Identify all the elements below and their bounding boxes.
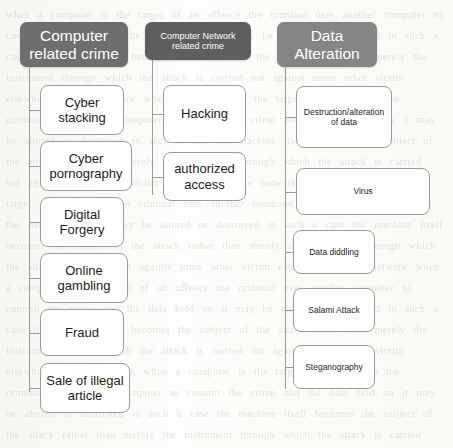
connector-trunk-computer-network-related-crime xyxy=(152,60,153,195)
node-box: Destruction/alteration of data xyxy=(296,86,392,148)
category-header-data-alteration: Data Alteration xyxy=(277,22,377,67)
node-box: Fraud xyxy=(40,309,124,356)
node-box: Hacking xyxy=(163,85,246,143)
connector-stub xyxy=(29,166,40,167)
connector-trunk-data-alteration xyxy=(285,67,286,389)
connector-stub xyxy=(285,117,296,118)
node-box: Data diddling xyxy=(293,230,375,274)
connector-stub xyxy=(29,110,40,111)
connector-stub xyxy=(29,222,40,223)
node-box: Cyber stacking xyxy=(40,85,124,135)
connector-stub xyxy=(152,114,163,115)
connector-stub xyxy=(285,252,293,253)
node-box: Virus xyxy=(296,168,430,215)
node-box: Online gambling xyxy=(40,253,128,303)
node-box: Steganography xyxy=(293,345,375,389)
node-box: Salami Attack xyxy=(293,288,375,332)
node-box: Digital Forgery xyxy=(40,197,124,247)
connector-stub xyxy=(285,367,293,368)
connector-stub xyxy=(29,333,40,334)
connector-stub xyxy=(29,388,40,389)
connector-stub xyxy=(152,177,163,178)
node-box: Cyber pornography xyxy=(40,141,132,191)
connector-stub xyxy=(29,278,40,279)
connector-stub xyxy=(285,310,293,311)
node-box: authorized access xyxy=(163,152,246,201)
category-header-computer-network-related-crime: Computer Network related crime xyxy=(145,22,251,60)
connector-trunk-computer-related-crime xyxy=(29,67,30,392)
category-header-computer-related-crime: Computer related crime xyxy=(20,22,128,67)
cyber-crime-classification-diagram: Computer related crimeCyber stackingCybe… xyxy=(0,0,453,448)
node-box: Sale of illegal article xyxy=(40,363,130,413)
connector-stub xyxy=(285,192,296,193)
